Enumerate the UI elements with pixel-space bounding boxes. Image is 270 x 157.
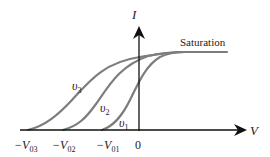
x-axis-label: V: [250, 123, 260, 138]
saturation-label: Saturation: [180, 36, 226, 48]
tick-v03: −V03: [14, 138, 37, 154]
y-axis-label: I: [131, 7, 137, 22]
tick-v01: −V01: [96, 138, 119, 154]
curve-label-v3: υ3: [72, 79, 82, 95]
tick-v02: −V02: [52, 138, 75, 154]
curve-label-v2: υ2: [100, 101, 110, 117]
origin-label: 0: [135, 138, 141, 152]
photocurrent-diagram: I V Saturation 0 −V03 −V02 −V01 υ1 υ2 υ3: [0, 0, 270, 157]
curve-label-v1: υ1: [119, 116, 129, 132]
curve-v3: [28, 52, 185, 130]
